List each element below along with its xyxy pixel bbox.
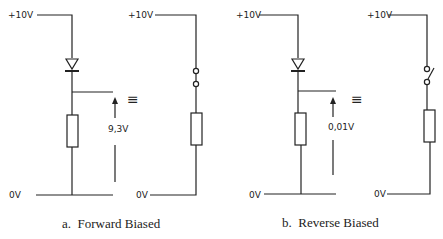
- resistor-icon: [191, 113, 202, 145]
- output-voltage-label: 0,01V: [328, 122, 355, 132]
- caption-forward-biased: a. Forward Biased: [62, 216, 161, 231]
- supply-label: +10V: [128, 10, 154, 20]
- voltage-arrow-icon: [112, 97, 118, 182]
- ground-label: 0V: [9, 190, 22, 200]
- panel-a-diode-circuit: +10V 0V 9,3V: [8, 10, 129, 200]
- ground-label: 0V: [249, 190, 262, 200]
- closed-switch-icon: [193, 68, 198, 86]
- equivalent-symbol: ≡: [351, 91, 363, 107]
- diode-icon: [291, 59, 305, 71]
- panel-a-switch-circuit: +10V 0V: [128, 10, 202, 200]
- supply-wire: [259, 15, 298, 58]
- ground-label: 0V: [136, 190, 149, 200]
- caption-reverse-biased: b. Reverse Biased: [282, 215, 379, 230]
- diode-icon: [65, 59, 79, 71]
- voltage-arrow-icon: [330, 97, 336, 175]
- diode-bias-diagram: +10V 0V 9,3V ≡ +10V 0V: [0, 0, 443, 239]
- supply-label: +10V: [8, 10, 34, 20]
- equivalent-symbol: ≡: [127, 91, 139, 107]
- ground-wire: [387, 142, 430, 194]
- ground-wire: [150, 145, 196, 195]
- supply-label: +10V: [236, 10, 262, 20]
- supply-wire: [388, 15, 427, 66]
- ground-label: 0V: [374, 189, 387, 199]
- supply-wire: [37, 15, 72, 58]
- resistor-icon: [67, 115, 78, 147]
- resistor-icon: [295, 113, 306, 145]
- supply-wire: [155, 15, 196, 68]
- output-voltage-label: 9,3V: [108, 124, 129, 134]
- panel-b-diode-circuit: +10V 0V 0,01V: [236, 10, 355, 200]
- resistor-icon: [424, 110, 435, 142]
- panel-b-switch-circuit: +10V 0V: [367, 10, 435, 199]
- open-switch-icon: [424, 66, 434, 84]
